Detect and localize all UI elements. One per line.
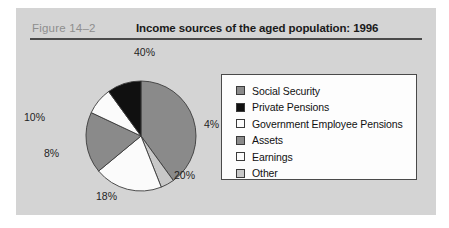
legend-item: Other bbox=[236, 166, 416, 182]
pie-chart-svg bbox=[16, 44, 221, 212]
pie-percentage-label: 8% bbox=[44, 147, 59, 159]
legend-swatch-icon bbox=[236, 152, 245, 161]
pie-percentage-label: 18% bbox=[96, 190, 117, 202]
legend-swatch-icon bbox=[236, 136, 245, 145]
pie-chart: 40%4%20%18%8%10% bbox=[16, 44, 221, 212]
legend-swatch-icon bbox=[236, 103, 245, 112]
legend-swatch-icon bbox=[236, 119, 245, 128]
chart-legend: Social SecurityPrivate PensionsGovernmen… bbox=[221, 74, 417, 180]
legend-item-label: Other bbox=[252, 167, 278, 179]
legend-item: Government Employee Pensions bbox=[236, 116, 416, 132]
title-divider bbox=[30, 38, 422, 40]
pie-percentage-label: 40% bbox=[134, 46, 155, 58]
legend-item: Private Pensions bbox=[236, 100, 416, 116]
pie-percentage-label: 4% bbox=[204, 118, 219, 130]
pie-percentage-label: 20% bbox=[174, 169, 195, 181]
legend-item: Earnings bbox=[236, 149, 416, 165]
legend-item-label: Earnings bbox=[252, 151, 293, 163]
legend-item-label: Assets bbox=[252, 134, 283, 146]
legend-swatch-icon bbox=[236, 86, 245, 95]
figure-number-label: Figure 14–2 bbox=[32, 22, 96, 34]
legend-swatch-icon bbox=[236, 169, 245, 178]
figure-panel: Figure 14–2 Income sources of the aged p… bbox=[16, 8, 436, 215]
legend-item-list: Social SecurityPrivate PensionsGovernmen… bbox=[236, 83, 416, 181]
figure-header: Figure 14–2 Income sources of the aged p… bbox=[16, 20, 436, 44]
legend-item: Assets bbox=[236, 133, 416, 149]
legend-item-label: Social Security bbox=[252, 85, 320, 97]
legend-item: Social Security bbox=[236, 83, 416, 99]
pie-percentage-label: 10% bbox=[24, 111, 45, 123]
legend-item-label: Private Pensions bbox=[252, 101, 329, 113]
page-title: Income sources of the aged population: 1… bbox=[136, 22, 378, 34]
legend-item-label: Government Employee Pensions bbox=[252, 118, 403, 130]
